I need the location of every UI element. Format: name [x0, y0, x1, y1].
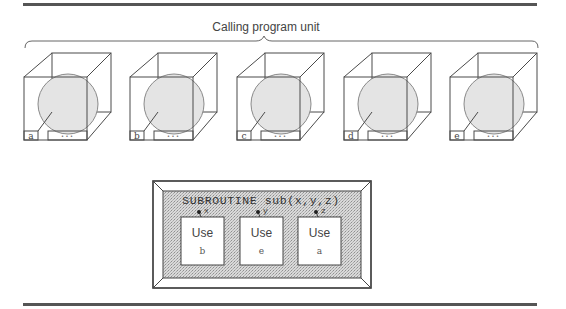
bottom-rule [23, 303, 537, 306]
arg-label: x [204, 206, 209, 215]
use-module-name: e [259, 246, 264, 256]
module-label: e [454, 131, 459, 141]
module-ellipsis: • • • [61, 133, 73, 139]
module-cube-a: a• • • [24, 53, 111, 141]
module-sphere [38, 74, 98, 134]
use-keyword: Use [192, 226, 214, 240]
calling-program-brace [25, 36, 538, 48]
module-label: b [134, 131, 140, 141]
module-ellipsis: • • • [487, 133, 499, 139]
module-label: a [28, 131, 34, 141]
module-sphere [144, 74, 204, 134]
use-keyword: Use [309, 226, 331, 240]
module-cube-b: b• • • [130, 53, 217, 141]
module-ellipsis: • • • [274, 133, 286, 139]
module-sphere [251, 74, 311, 134]
module-label: d [348, 131, 354, 141]
arg-label: y [263, 206, 268, 215]
use-module-name: a [317, 246, 323, 256]
module-sphere [358, 74, 418, 134]
module-sphere [464, 74, 524, 134]
arg-label: z [321, 206, 326, 215]
calling-program-unit-label: Calling program unit [212, 20, 320, 34]
module-ellipsis: • • • [381, 133, 393, 139]
use-keyword: Use [251, 226, 273, 240]
diagram-canvas: Calling program unit a• • •b• • •c• • •d… [0, 0, 566, 309]
top-rule [23, 3, 537, 6]
use-module-name: b [200, 246, 206, 256]
module-ellipsis: • • • [167, 133, 179, 139]
module-cube-c: c• • • [237, 53, 324, 141]
module-cube-d: d• • • [344, 53, 431, 141]
module-cube-e: e• • • [450, 53, 537, 141]
module-label: c [241, 131, 246, 141]
